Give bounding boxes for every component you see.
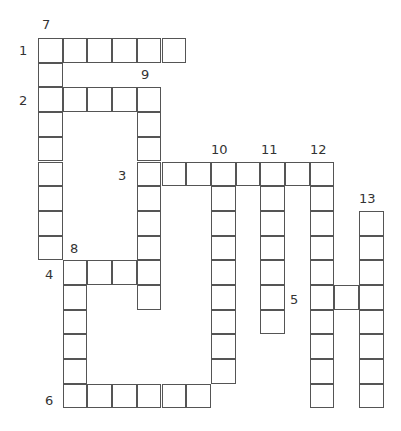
crossword-cell[interactable]: [63, 87, 88, 112]
clue-number: 2: [19, 94, 27, 107]
clue-number: 7: [42, 18, 50, 31]
crossword-cell[interactable]: [63, 310, 88, 335]
crossword-cell[interactable]: [38, 186, 63, 211]
crossword-cell[interactable]: [211, 162, 236, 187]
crossword-cell[interactable]: [137, 87, 162, 112]
crossword-cell[interactable]: [211, 285, 236, 310]
crossword-cell[interactable]: [359, 384, 384, 409]
crossword-cell[interactable]: [63, 260, 88, 285]
crossword-cell[interactable]: [63, 334, 88, 359]
crossword-cell[interactable]: [162, 38, 187, 63]
crossword-cell[interactable]: [38, 211, 63, 236]
crossword-cell[interactable]: [162, 162, 187, 187]
crossword-cell[interactable]: [260, 310, 285, 335]
crossword-cell[interactable]: [236, 162, 261, 187]
crossword-cell[interactable]: [112, 260, 137, 285]
crossword-cell[interactable]: [310, 285, 335, 310]
crossword-cell[interactable]: [38, 236, 63, 261]
crossword-cell[interactable]: [38, 87, 63, 112]
crossword-cell[interactable]: [211, 236, 236, 261]
crossword-cell[interactable]: [137, 384, 162, 409]
clue-number: 11: [261, 143, 278, 156]
crossword-cell[interactable]: [137, 211, 162, 236]
crossword-cell[interactable]: [310, 260, 335, 285]
crossword-cell[interactable]: [186, 162, 211, 187]
crossword-cell[interactable]: [260, 211, 285, 236]
crossword-cell[interactable]: [359, 310, 384, 335]
crossword-cell[interactable]: [310, 384, 335, 409]
crossword-cell[interactable]: [38, 38, 63, 63]
crossword-cell[interactable]: [310, 310, 335, 335]
crossword-cell[interactable]: [359, 359, 384, 384]
crossword-cell[interactable]: [87, 384, 112, 409]
crossword-cell[interactable]: [137, 236, 162, 261]
clue-number: 10: [211, 143, 228, 156]
crossword-cell[interactable]: [137, 112, 162, 137]
crossword-cell[interactable]: [38, 137, 63, 162]
crossword-cell[interactable]: [137, 260, 162, 285]
crossword-cell[interactable]: [310, 334, 335, 359]
crossword-cell[interactable]: [260, 186, 285, 211]
crossword-cell[interactable]: [87, 38, 112, 63]
crossword-cell[interactable]: [310, 211, 335, 236]
crossword-cell[interactable]: [38, 63, 63, 88]
crossword-cell[interactable]: [63, 384, 88, 409]
crossword-cell[interactable]: [38, 112, 63, 137]
crossword-cell[interactable]: [359, 236, 384, 261]
crossword-cell[interactable]: [260, 285, 285, 310]
crossword-cell[interactable]: [310, 186, 335, 211]
crossword-grid: 71921011123138456: [0, 0, 401, 431]
crossword-cell[interactable]: [137, 186, 162, 211]
crossword-cell[interactable]: [137, 162, 162, 187]
crossword-cell[interactable]: [162, 384, 187, 409]
clue-number: 8: [70, 242, 78, 255]
crossword-cell[interactable]: [359, 211, 384, 236]
crossword-cell[interactable]: [211, 334, 236, 359]
crossword-cell[interactable]: [211, 359, 236, 384]
clue-number: 6: [45, 394, 53, 407]
crossword-cell[interactable]: [87, 87, 112, 112]
crossword-cell[interactable]: [260, 236, 285, 261]
crossword-cell[interactable]: [112, 87, 137, 112]
crossword-cell[interactable]: [186, 384, 211, 409]
crossword-cell[interactable]: [137, 38, 162, 63]
clue-number: 12: [310, 143, 327, 156]
crossword-cell[interactable]: [359, 334, 384, 359]
crossword-cell[interactable]: [359, 285, 384, 310]
crossword-cell[interactable]: [310, 236, 335, 261]
crossword-cell[interactable]: [63, 38, 88, 63]
crossword-cell[interactable]: [211, 186, 236, 211]
crossword-cell[interactable]: [137, 137, 162, 162]
crossword-cell[interactable]: [63, 359, 88, 384]
clue-number: 3: [118, 169, 126, 182]
crossword-cell[interactable]: [334, 285, 359, 310]
crossword-cell[interactable]: [211, 260, 236, 285]
clue-number: 5: [290, 293, 298, 306]
crossword-cell[interactable]: [211, 211, 236, 236]
crossword-cell[interactable]: [63, 285, 88, 310]
clue-number: 9: [141, 68, 149, 81]
crossword-cell[interactable]: [38, 162, 63, 187]
crossword-cell[interactable]: [87, 260, 112, 285]
crossword-cell[interactable]: [310, 162, 335, 187]
clue-number: 1: [19, 44, 27, 57]
crossword-cell[interactable]: [112, 384, 137, 409]
crossword-cell[interactable]: [137, 285, 162, 310]
crossword-cell[interactable]: [260, 260, 285, 285]
crossword-cell[interactable]: [112, 38, 137, 63]
crossword-cell[interactable]: [359, 260, 384, 285]
crossword-cell[interactable]: [310, 359, 335, 384]
crossword-cell[interactable]: [211, 310, 236, 335]
clue-number: 13: [359, 192, 376, 205]
crossword-cell[interactable]: [260, 162, 285, 187]
clue-number: 4: [45, 268, 53, 281]
crossword-cell[interactable]: [285, 162, 310, 187]
